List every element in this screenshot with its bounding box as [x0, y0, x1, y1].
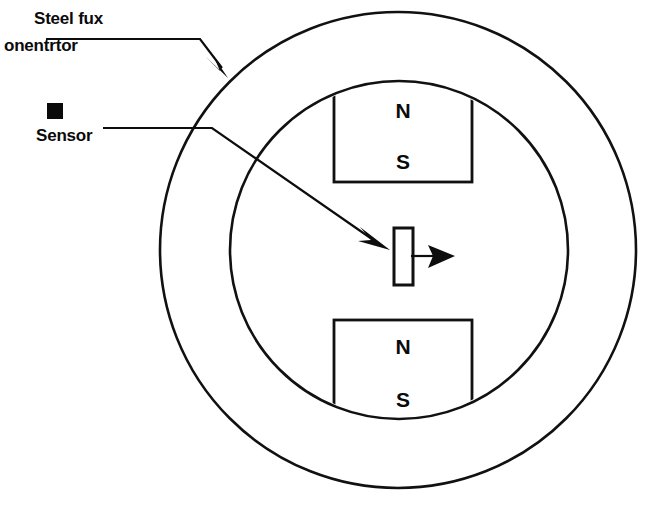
magnet-bottom-pole-north: N	[395, 335, 410, 358]
magnet-top-pole-north: N	[395, 99, 410, 122]
sensor-symbol-glyph: H	[47, 103, 63, 119]
magnet-bottom-pole-south: S	[396, 388, 410, 411]
sensor-label: Sensor	[36, 126, 92, 146]
magnet-top-pole-south: S	[396, 150, 410, 173]
leader-to-sensor-arrowhead	[358, 227, 390, 250]
concentrator-label-line1: Steel fux	[34, 9, 103, 29]
diagram-root: N S N S Steel fux onentrtor H Sensor	[0, 0, 648, 512]
magnetic-sensor-diagram: N S N S	[0, 0, 648, 512]
concentrator-label-line2: onentrtor	[4, 36, 78, 56]
hall-sensor-element	[394, 228, 413, 285]
